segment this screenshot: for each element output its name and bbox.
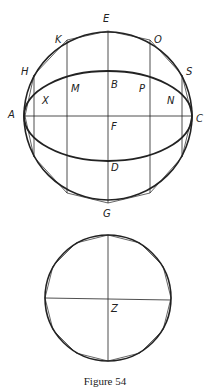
figure-caption: Figure 54: [84, 375, 127, 387]
label-N: N: [167, 95, 175, 106]
label-E: E: [103, 13, 110, 24]
label-K: K: [55, 34, 63, 45]
lower-circle: [45, 235, 171, 361]
label-H: H: [21, 66, 29, 77]
upper-sphere: [24, 31, 192, 203]
label-C: C: [196, 113, 203, 124]
figure-54-diagram: E K O H S A C B M P X N F D G Z Figure 5…: [0, 0, 211, 391]
label-B: B: [111, 79, 118, 90]
label-D: D: [111, 162, 119, 173]
label-G: G: [103, 208, 111, 219]
label-M: M: [71, 83, 80, 94]
label-S: S: [186, 66, 193, 77]
label-X: X: [41, 95, 50, 106]
label-A: A: [7, 109, 15, 120]
label-Z: Z: [110, 303, 119, 314]
label-F: F: [111, 121, 117, 132]
label-O: O: [154, 34, 162, 45]
label-P: P: [139, 83, 146, 94]
